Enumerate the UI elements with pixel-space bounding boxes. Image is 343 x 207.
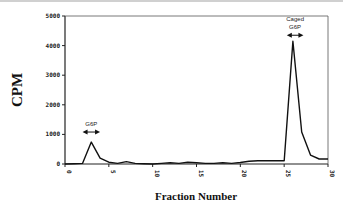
annotation-label: G6P <box>85 121 97 127</box>
x-tick-label: 20 <box>241 170 248 178</box>
x-tick-label: 10 <box>154 170 161 178</box>
plot-frame <box>65 16 328 164</box>
line-chart: 010002000300040005000 051015202530 G6PCa… <box>0 0 343 207</box>
annotation-label: Caged <box>286 16 304 22</box>
x-tick-label: 0 <box>66 170 73 174</box>
y-tick-label: 0 <box>56 160 60 167</box>
arrow-left-icon <box>287 33 292 38</box>
annotation-label: G6P <box>289 24 301 30</box>
x-tick-label: 25 <box>285 170 292 178</box>
y-axis-label: CPM <box>9 73 25 107</box>
arrow-left-icon <box>83 130 88 135</box>
arrow-right-icon <box>95 130 100 135</box>
y-tick-label: 3000 <box>46 71 61 78</box>
x-axis-label: Fraction Number <box>155 190 237 202</box>
x-tick-label: 30 <box>329 170 336 178</box>
y-axis-ticks: 010002000300040005000 <box>46 12 65 167</box>
y-tick-label: 2000 <box>46 101 61 108</box>
x-tick-label: 15 <box>198 170 205 178</box>
annotations-layer: G6PCagedG6P <box>83 16 304 134</box>
x-axis-ticks: 051015202530 <box>65 164 336 178</box>
arrow-right-icon <box>298 33 303 38</box>
y-tick-label: 1000 <box>46 130 61 137</box>
y-tick-label: 5000 <box>46 12 61 19</box>
x-tick-label: 5 <box>110 170 117 174</box>
series-layer <box>65 41 328 164</box>
series-line-cpm <box>65 41 328 164</box>
y-tick-label: 4000 <box>46 42 61 49</box>
